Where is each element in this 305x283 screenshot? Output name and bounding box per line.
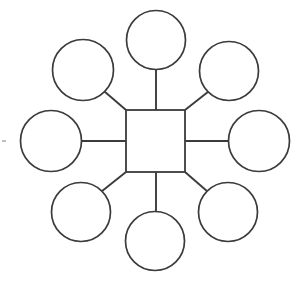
scan-speck [2, 140, 6, 142]
node-bottom-circle[interactable] [126, 212, 185, 271]
connector-top-right [185, 92, 208, 110]
node-right[interactable] [229, 111, 290, 172]
node-top-right[interactable] [200, 42, 259, 101]
center-topic-square[interactable] [126, 110, 185, 172]
node-top-left-circle[interactable] [53, 40, 114, 101]
node-top-left[interactable] [53, 40, 114, 101]
concept-map-diagram [0, 0, 305, 283]
node-right-circle[interactable] [229, 111, 290, 172]
node-bottom-right[interactable] [199, 183, 258, 242]
connector-top-left [105, 92, 127, 111]
node-top-right-circle[interactable] [200, 42, 259, 101]
hub-node[interactable] [126, 110, 185, 172]
node-left[interactable] [21, 111, 82, 172]
connector-bottom-right [185, 172, 207, 191]
connector-bottom-left [102, 172, 126, 191]
node-bottom-left[interactable] [52, 183, 111, 242]
node-bottom-left-circle[interactable] [52, 183, 111, 242]
node-bottom[interactable] [126, 212, 185, 271]
diagram-canvas [0, 0, 305, 283]
node-top-circle[interactable] [127, 11, 186, 70]
node-top[interactable] [127, 11, 186, 70]
node-left-circle[interactable] [21, 111, 82, 172]
node-bottom-right-circle[interactable] [199, 183, 258, 242]
